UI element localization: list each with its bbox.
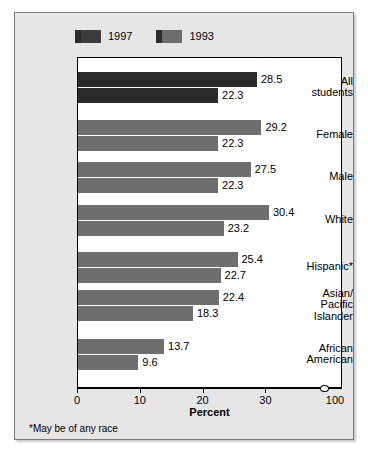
bar-value-label: 29.2: [265, 120, 286, 135]
legend-label-1997: 1997: [108, 31, 132, 42]
x-tick: [77, 388, 78, 393]
category-label: Male: [297, 171, 353, 183]
x-tick-label: 20: [196, 394, 208, 406]
axis-break-icon: [320, 385, 329, 392]
bar-1997: [78, 252, 238, 267]
bar-value-label: 22.3: [222, 88, 243, 103]
bar-value-label: 27.5: [255, 162, 276, 177]
bar-value-label: 23.2: [228, 221, 249, 236]
bar-value-label: 28.5: [261, 72, 282, 87]
bar-value-label: 25.4: [242, 252, 263, 267]
legend-entry-1993: 1993: [156, 30, 213, 43]
bar-1993: [78, 178, 218, 193]
x-axis: [77, 388, 342, 389]
bar-value-label: 9.6: [142, 355, 157, 370]
chart-footnote: *May be of any race: [29, 423, 118, 434]
bar-value-label: 22.3: [222, 136, 243, 151]
x-tick-label: 100: [326, 394, 344, 406]
x-tick: [140, 388, 141, 393]
category-label-line: Male: [297, 171, 353, 183]
bar-1993: [78, 136, 218, 151]
x-tick-label: 30: [259, 394, 271, 406]
bar-value-label: 22.3: [222, 178, 243, 193]
legend-swatch-1993: [156, 30, 182, 43]
x-axis-title: Percent: [77, 406, 342, 418]
bar-1993: [78, 268, 221, 283]
legend-label-1993: 1993: [189, 31, 213, 42]
x-tick-label: 0: [74, 394, 80, 406]
bar-1993: [78, 221, 224, 236]
bar-value-label: 22.7: [225, 268, 246, 283]
category-label-line: American: [297, 354, 353, 366]
bar-1997: [78, 72, 257, 87]
category-label-line: Islander: [297, 311, 353, 323]
legend-swatch-1997: [75, 30, 101, 43]
category-label-line: White: [297, 214, 353, 226]
bar-1993: [78, 88, 218, 103]
bar-value-label: 30.4: [273, 205, 294, 220]
category-label: Female: [297, 129, 353, 141]
chart-figure: 19971993 28.522.329.222.327.522.330.423.…: [14, 12, 354, 440]
category-label: Asian/PacificIslander: [297, 288, 353, 323]
bar-1993: [78, 306, 193, 321]
category-label-line: students: [297, 87, 353, 99]
bar-1997: [78, 290, 219, 305]
bar-1997: [78, 162, 251, 177]
bar-1997: [78, 339, 164, 354]
bar-value-label: 13.7: [168, 339, 189, 354]
category-label: White: [297, 214, 353, 226]
bar-value-label: 22.4: [223, 290, 244, 305]
category-label-line: Female: [297, 129, 353, 141]
category-label: AfricanAmerican: [297, 343, 353, 366]
legend-entry-1997: 1997: [75, 30, 132, 43]
bar-1993: [78, 355, 138, 370]
x-tick: [203, 388, 204, 393]
x-tick-label: 10: [134, 394, 146, 406]
bar-1997: [78, 120, 261, 135]
bar-1997: [78, 205, 269, 220]
category-label-line: Hispanic*: [297, 261, 353, 273]
bar-value-label: 18.3: [197, 306, 218, 321]
x-tick: [265, 388, 266, 393]
chart-legend: 19971993: [75, 27, 214, 45]
category-label: Allstudents: [297, 76, 353, 99]
category-label: Hispanic*: [297, 261, 353, 273]
